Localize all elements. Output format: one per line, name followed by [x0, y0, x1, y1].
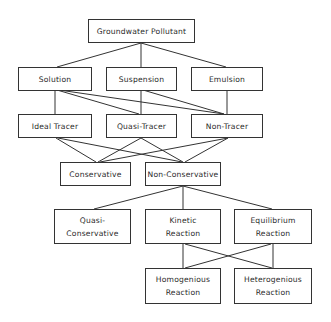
node-label: Conservative: [69, 168, 121, 181]
node-label: Groundwater Pollutant: [97, 25, 187, 38]
node-quasi-tracer: Quasi-Tracer: [106, 114, 177, 138]
node-label-line2: Reaction: [166, 286, 201, 299]
node-suspension: Suspension: [106, 67, 177, 91]
node-label-line1: Kinetic: [169, 214, 196, 227]
node-label: Emulsion: [209, 73, 245, 86]
node-label: Non-Tracer: [206, 120, 248, 133]
node-groundwater-pollutant: Groundwater Pollutant: [88, 19, 195, 43]
node-non-tracer: Non-Tracer: [191, 114, 263, 138]
node-label-line1: Quasi-: [80, 214, 105, 227]
node-label-line2: Reaction: [256, 286, 291, 299]
node-label: Suspension: [119, 73, 164, 86]
node-solution: Solution: [18, 67, 92, 91]
node-label-line2: Reaction: [256, 227, 291, 240]
node-label-line2: Reaction: [166, 227, 201, 240]
node-label-line1: Homogenious: [156, 273, 210, 286]
node-equilibrium-reaction: Equilibrium Reaction: [234, 209, 312, 244]
node-conservative: Conservative: [60, 162, 131, 186]
node-label-line2: Conservative: [66, 227, 118, 240]
node-homogenious-reaction: Homogenious Reaction: [145, 268, 221, 304]
node-heterogenious-reaction: Heterogenious Reaction: [234, 268, 312, 304]
node-label: Ideal Tracer: [32, 120, 79, 133]
node-ideal-tracer: Ideal Tracer: [18, 114, 92, 138]
node-label: Quasi-Tracer: [117, 120, 166, 133]
node-quasi-conservative: Quasi- Conservative: [54, 209, 131, 244]
node-label-line1: Equilibrium: [250, 214, 295, 227]
node-label: Non-Conservative: [148, 168, 219, 181]
node-non-conservative: Non-Conservative: [145, 162, 221, 186]
node-kinetic-reaction: Kinetic Reaction: [145, 209, 221, 244]
node-label: Solution: [39, 73, 72, 86]
node-emulsion: Emulsion: [191, 67, 263, 91]
node-label-line1: Heterogenious: [244, 273, 302, 286]
